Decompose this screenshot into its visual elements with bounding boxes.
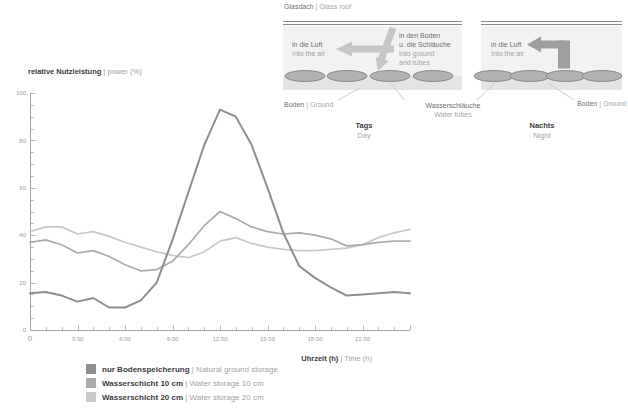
night-air-arrow-label-de: in die Luft <box>491 40 524 49</box>
legend-item-water10: Wasserschicht 10 cm | Water storage 10 c… <box>86 376 278 390</box>
day-ground-label-de: Boden <box>284 101 304 108</box>
legend-item-ground: nur Bodenspeicherung | Natural ground st… <box>86 362 278 376</box>
water-tube <box>413 71 453 82</box>
day-ground-arrow-label-de2: u. die Schläuche <box>399 40 451 49</box>
legend: nur Bodenspeicherung | Natural ground st… <box>86 362 278 404</box>
night-caption-en: Night <box>517 131 567 141</box>
day-ground-arrow-label-en1: Into ground <box>399 49 451 58</box>
y-tick-label: 0 <box>23 327 27 333</box>
day-ground-label-en: | Ground <box>306 101 333 108</box>
night-air-arrow-label: in die Luft Into the air <box>491 40 524 58</box>
night-ground-label: Boden | Ground <box>577 99 626 108</box>
x-tick-label: 12:00 <box>212 336 228 342</box>
x-axis-title-en: | Time (h) <box>340 354 372 363</box>
legend-label-water20-en: | Water storage 20 cm <box>185 393 263 402</box>
legend-label-water20-de: Wasserschicht 20 cm <box>102 393 183 402</box>
y-tick-label: 20 <box>19 280 26 286</box>
x-tick-label: 0 <box>28 334 33 343</box>
x-tick-label: 3:00 <box>72 336 84 342</box>
night-diagram <box>474 22 622 101</box>
glass-roof-label: Glasdach | Glass roof <box>284 2 351 11</box>
legend-swatch-water10 <box>86 378 96 388</box>
y-tick-label: 80 <box>19 138 26 144</box>
y-axis-title-de: relative Nutzleistung <box>28 67 101 76</box>
legend-label-water10-de: Wasserschicht 10 cm <box>102 379 183 388</box>
legend-label-water10-en: | Water storage 10 cm <box>185 379 263 388</box>
day-caption-en: Day <box>339 131 389 141</box>
day-air-arrow-label-de: in die Luft <box>292 40 325 49</box>
day-caption: Tags Day <box>339 121 389 140</box>
x-axis-title-de: Uhrzeit (h) <box>301 354 338 363</box>
series-line-water20 <box>30 227 410 258</box>
water-tube <box>510 71 550 82</box>
legend-swatch-ground <box>86 364 96 374</box>
day-caption-de: Tags <box>339 121 389 131</box>
legend-label-ground-de: nur Bodenspeicherung <box>102 365 190 374</box>
x-tick-label: 18:00 <box>307 336 323 342</box>
x-tick-label: 15:00 <box>260 336 276 342</box>
legend-label-ground-en: | Natural ground storage <box>192 365 278 374</box>
water-tube <box>474 71 514 82</box>
night-caption: Nachts Night <box>517 121 567 140</box>
night-ground-label-de: Boden <box>577 100 597 107</box>
water-tube <box>327 71 367 82</box>
water-tubes-label-en: Water tubes <box>408 110 498 119</box>
day-ground-label: Boden | Ground <box>284 100 333 109</box>
x-tick-label: 21:00 <box>355 336 371 342</box>
day-ground-arrow-label: in den Boden u. die Schläuche Into groun… <box>399 31 451 67</box>
y-tick-label: 60 <box>19 185 26 191</box>
water-tube <box>582 71 622 82</box>
water-tube <box>285 71 325 82</box>
y-axis-title-en: | power (%) <box>103 67 141 76</box>
water-tube <box>370 71 410 82</box>
night-air-arrow-label-en: Into the air <box>491 49 524 58</box>
y-axis-title: relative Nutzleistung | power (%) <box>28 67 142 76</box>
x-tick-label: 9:00 <box>167 336 179 342</box>
figure-canvas: 03:006:009:0012:0015:0018:0021:000204060… <box>0 0 628 410</box>
legend-item-water20: Wasserschicht 20 cm | Water storage 20 c… <box>86 390 278 404</box>
legend-swatch-water20 <box>86 392 96 402</box>
day-ground-arrow-label-en2: and tubes <box>399 58 451 67</box>
night-caption-de: Nachts <box>517 121 567 131</box>
glass-roof-label-de: Glasdach <box>284 3 314 10</box>
day-ground-arrow-label-de1: in den Boden <box>399 31 451 40</box>
x-tick-label: 6:00 <box>119 336 131 342</box>
y-tick-label: 100 <box>16 90 27 96</box>
water-tube <box>546 71 586 82</box>
day-air-arrow-label: in die Luft Into the air <box>292 40 325 58</box>
glass-roof-label-en: | Glass roof <box>316 3 352 10</box>
night-ground-label-en: | Ground <box>599 100 626 107</box>
water-tubes-label-de: Wasserschläuche <box>408 101 498 110</box>
y-tick-label: 40 <box>19 232 26 238</box>
water-tubes-label: Wasserschläuche Water tubes <box>408 101 498 119</box>
day-air-arrow-label-en: Into the air <box>292 49 325 58</box>
